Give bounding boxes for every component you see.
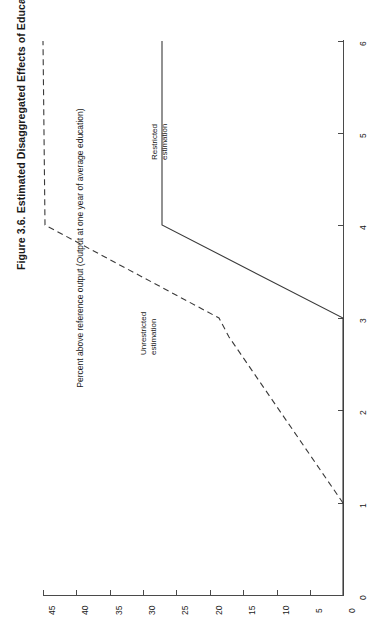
restricted-series-line [162,41,343,595]
unrestricted-series-line [43,41,343,503]
series-lines [0,0,374,632]
chart-plot-area: 45 40 35 30 25 20 15 10 5 0 0 1 2 3 4 5 … [0,0,374,632]
series-label-restricted: Restricted estimation [150,124,169,160]
series-label-restricted-line1: Restricted [150,124,160,160]
series-label-restricted-line2: estimation [160,124,170,160]
series-label-unrestricted-line1: Unrestricted [139,312,149,355]
series-label-unrestricted: Unrestricted estimation [139,312,158,355]
series-label-unrestricted-line2: estimation [149,312,159,355]
